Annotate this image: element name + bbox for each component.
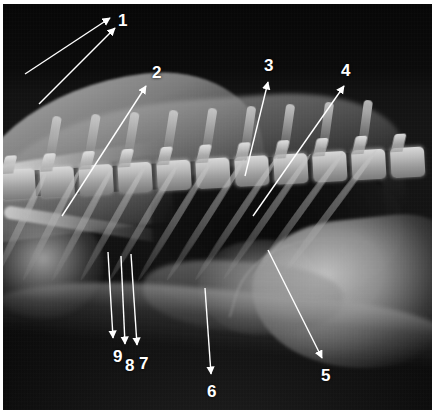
intervertebral-disc-space	[424, 148, 430, 174]
vertebral-body	[390, 146, 426, 178]
radiograph-figure: 123456789	[0, 0, 435, 415]
radiograph-image	[3, 4, 432, 410]
